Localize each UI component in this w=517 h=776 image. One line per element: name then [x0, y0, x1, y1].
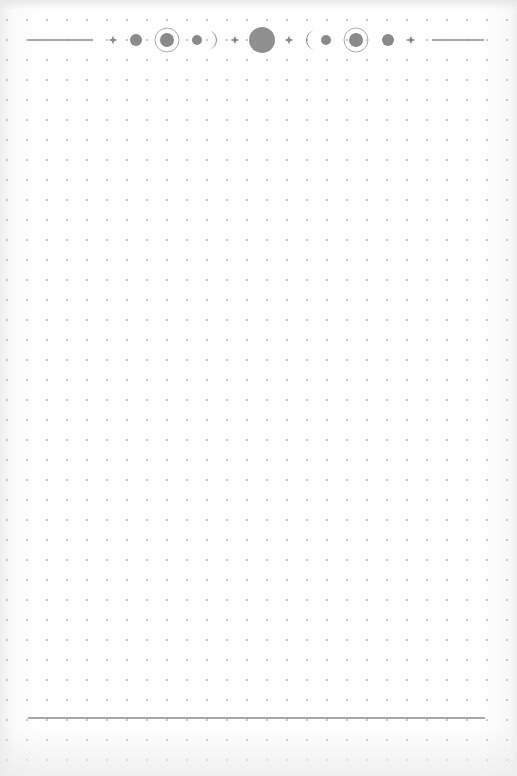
grid-dot	[326, 19, 328, 21]
grid-dot	[506, 639, 508, 641]
grid-dot	[386, 559, 388, 561]
grid-dot	[26, 59, 28, 61]
grid-dot	[206, 739, 208, 741]
grid-dot	[86, 679, 88, 681]
grid-dot	[166, 159, 168, 161]
grid-dot	[46, 639, 48, 641]
grid-dot	[266, 539, 268, 541]
grid-dot	[446, 479, 448, 481]
grid-dot	[86, 699, 88, 701]
grid-dot	[466, 479, 468, 481]
grid-dot	[506, 299, 508, 301]
grid-dot	[26, 299, 28, 301]
grid-dot	[266, 479, 268, 481]
grid-dot	[406, 759, 408, 761]
grid-dot	[266, 719, 268, 721]
grid-dot	[386, 619, 388, 621]
grid-dot	[146, 479, 148, 481]
grid-dot	[386, 19, 388, 21]
grid-dot	[386, 219, 388, 221]
grid-dot	[166, 539, 168, 541]
grid-dot	[426, 199, 428, 201]
grid-dot	[206, 599, 208, 601]
grid-dot	[26, 439, 28, 441]
grid-dot	[226, 139, 228, 141]
grid-dot	[266, 579, 268, 581]
grid-dot	[66, 519, 68, 521]
grid-dot	[306, 179, 308, 181]
grid-dot	[326, 419, 328, 421]
waxing-crescent-moon-icon	[207, 30, 217, 50]
grid-dot	[206, 479, 208, 481]
grid-dot	[186, 459, 188, 461]
grid-dot	[106, 239, 108, 241]
grid-dot	[346, 619, 348, 621]
grid-dot	[26, 119, 28, 121]
grid-dot	[326, 79, 328, 81]
grid-dot	[146, 39, 148, 41]
grid-dot	[286, 79, 288, 81]
grid-dot	[86, 379, 88, 381]
grid-dot	[166, 499, 168, 501]
grid-dot	[446, 159, 448, 161]
grid-dot	[486, 99, 488, 101]
grid-dot	[266, 759, 268, 761]
grid-dot	[226, 759, 228, 761]
grid-dot	[466, 219, 468, 221]
grid-dot	[186, 39, 188, 41]
grid-dot	[146, 259, 148, 261]
grid-dot	[366, 279, 368, 281]
grid-dot	[266, 439, 268, 441]
grid-dot	[266, 259, 268, 261]
grid-dot	[6, 599, 8, 601]
grid-dot	[86, 299, 88, 301]
grid-dot	[346, 539, 348, 541]
grid-dot	[186, 479, 188, 481]
grid-dot	[446, 219, 448, 221]
grid-dot	[386, 79, 388, 81]
grid-dot	[506, 139, 508, 141]
grid-dot	[506, 199, 508, 201]
grid-dot	[6, 339, 8, 341]
grid-dot	[226, 319, 228, 321]
grid-dot	[506, 659, 508, 661]
grid-dot	[26, 359, 28, 361]
grid-dot	[406, 119, 408, 121]
grid-dot	[506, 399, 508, 401]
small-moon-dot-icon	[192, 35, 202, 45]
grid-dot	[146, 299, 148, 301]
grid-dot	[26, 559, 28, 561]
grid-dot	[206, 439, 208, 441]
grid-dot	[186, 99, 188, 101]
grid-dot	[66, 579, 68, 581]
grid-dot	[326, 279, 328, 281]
grid-dot	[486, 339, 488, 341]
grid-dot	[146, 719, 148, 721]
grid-dot	[406, 19, 408, 21]
grid-dot	[246, 759, 248, 761]
grid-dot	[146, 199, 148, 201]
grid-dot	[46, 259, 48, 261]
grid-dot	[506, 759, 508, 761]
sparkle-star-icon	[109, 36, 118, 45]
grid-dot	[266, 59, 268, 61]
grid-dot	[226, 419, 228, 421]
grid-dot	[66, 559, 68, 561]
grid-dot	[226, 699, 228, 701]
grid-dot	[446, 199, 448, 201]
grid-dot	[146, 119, 148, 121]
grid-dot	[266, 739, 268, 741]
grid-dot	[66, 199, 68, 201]
grid-dot	[186, 679, 188, 681]
grid-dot	[106, 679, 108, 681]
grid-dot	[46, 379, 48, 381]
grid-dot	[306, 539, 308, 541]
grid-dot	[486, 659, 488, 661]
grid-dot	[486, 679, 488, 681]
grid-dot	[286, 719, 288, 721]
grid-dot	[226, 679, 228, 681]
grid-dot	[126, 419, 128, 421]
grid-dot	[86, 739, 88, 741]
grid-dot	[446, 639, 448, 641]
grid-dot	[26, 39, 28, 41]
